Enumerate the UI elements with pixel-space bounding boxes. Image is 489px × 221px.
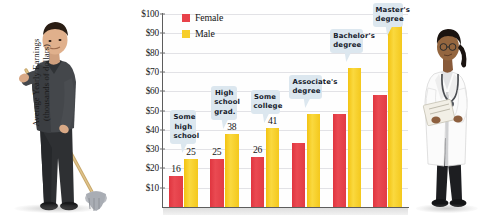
callout-some-high-school: Somehighschool <box>170 110 196 143</box>
bar-female-some-college <box>251 157 265 207</box>
y-axis-label-line1: Average Yearly Earnings <box>31 2 41 162</box>
y-axis-tick-label: $10 <box>146 183 159 193</box>
y-axis-tick-label: $70 <box>146 67 159 77</box>
bar-male-some-college <box>266 128 280 207</box>
callout-line: High <box>214 89 234 98</box>
bar-female-high-school-grad <box>210 159 224 207</box>
callout-line: grad. <box>214 108 234 117</box>
bar-value-label: 25 <box>186 146 195 157</box>
gridline <box>163 149 408 150</box>
gridline <box>163 168 408 169</box>
y-axis-tick-label: $20 <box>146 163 159 173</box>
bar-value-label: 16 <box>171 163 180 174</box>
y-axis-tick-mark <box>160 91 165 92</box>
y-axis-label-line2: (thousands of dollars) <box>41 2 51 162</box>
gridline <box>163 53 408 54</box>
y-axis-tick-mark <box>160 33 165 34</box>
callout-line: Bachelor's <box>333 32 360 41</box>
y-axis-tick-mark <box>160 110 165 111</box>
bar-female-associate-s-degree <box>292 143 306 207</box>
bar-female-bachelor-s-degree <box>333 114 347 207</box>
callout-line: school <box>173 132 193 141</box>
gridline <box>163 91 408 92</box>
bar-male-high-school-grad <box>225 134 239 207</box>
gridline <box>163 72 408 73</box>
bar-value-label: 26 <box>253 144 262 155</box>
y-axis-tick-mark <box>160 52 165 53</box>
y-axis-tick-mark <box>160 187 165 188</box>
y-axis-label: Average Yearly Earnings (thousands of do… <box>31 2 52 162</box>
callout-line: high <box>173 123 193 132</box>
doctor-illustration <box>408 14 486 215</box>
y-axis-tick-mark <box>160 14 165 15</box>
callout-line: degree <box>376 15 400 24</box>
bar-female-master-s-degree <box>373 95 387 207</box>
y-axis-tick-label: $100 <box>141 9 159 19</box>
callout-line: degree <box>292 87 319 96</box>
y-axis-tick-label: $90 <box>146 28 159 38</box>
y-axis-tick-label: $40 <box>146 125 159 135</box>
callout-line: Associate's <box>292 78 319 87</box>
callout-line: Some <box>254 93 277 102</box>
callout-associate-s-degree: Associate'sdegree <box>289 75 322 99</box>
callout-some-college: Somecollege <box>251 90 280 114</box>
legend-label-male: Male <box>195 28 215 39</box>
earnings-by-education-chart: Average Yearly Earnings (thousands of do… <box>0 0 489 221</box>
bar-female-some-high-school <box>169 176 183 207</box>
legend: Female Male <box>182 12 223 44</box>
callout-tail-icon <box>343 53 351 62</box>
legend-item-male: Male <box>182 28 223 39</box>
callout-line: degree <box>333 41 360 50</box>
callout-line: school <box>214 98 234 107</box>
y-axis-tick-label: $50 <box>146 106 159 116</box>
gridline <box>163 111 408 112</box>
callout-tail-icon <box>384 27 392 36</box>
photo-doctor <box>408 14 486 215</box>
gridline <box>163 188 408 189</box>
callout-line: college <box>254 102 277 111</box>
y-axis-tick-label: $30 <box>146 144 159 154</box>
y-axis-tick-label: $60 <box>146 86 159 96</box>
callout-line: Master's <box>376 6 400 15</box>
bar-value-label: 25 <box>212 146 221 157</box>
y-axis-tick-mark <box>160 129 165 130</box>
bar-male-associate-s-degree <box>307 114 321 207</box>
doctor-shadow <box>416 204 478 213</box>
legend-item-female: Female <box>182 12 223 23</box>
photo-janitor <box>4 8 108 215</box>
bar-male-master-s-degree <box>388 20 402 207</box>
callout-line: Some <box>173 113 193 122</box>
bar-value-label: 38 <box>227 121 236 132</box>
callout-high-school-grad: Highschoolgrad. <box>211 86 237 119</box>
legend-swatch-male-icon <box>182 30 190 38</box>
bar-male-bachelor-s-degree <box>348 68 362 207</box>
y-axis-tick-mark <box>160 149 165 150</box>
baseline-band <box>163 208 408 215</box>
y-axis-ticks: $10$20$30$40$50$60$70$80$90$100 <box>132 0 162 221</box>
y-axis-tick-label: $80 <box>146 48 159 58</box>
callout-master-s-degree: Master'sdegree <box>373 3 403 27</box>
gridline <box>163 130 408 131</box>
y-axis-tick-mark <box>160 168 165 169</box>
legend-swatch-female-icon <box>182 14 190 22</box>
janitor-illustration <box>4 8 108 215</box>
janitor-shadow <box>14 204 97 213</box>
legend-label-female: Female <box>195 12 223 23</box>
y-axis-tick-mark <box>160 71 165 72</box>
callout-bachelor-s-degree: Bachelor'sdegree <box>330 29 363 53</box>
bar-male-some-high-school <box>184 159 198 207</box>
bar-value-label: 41 <box>268 115 277 126</box>
